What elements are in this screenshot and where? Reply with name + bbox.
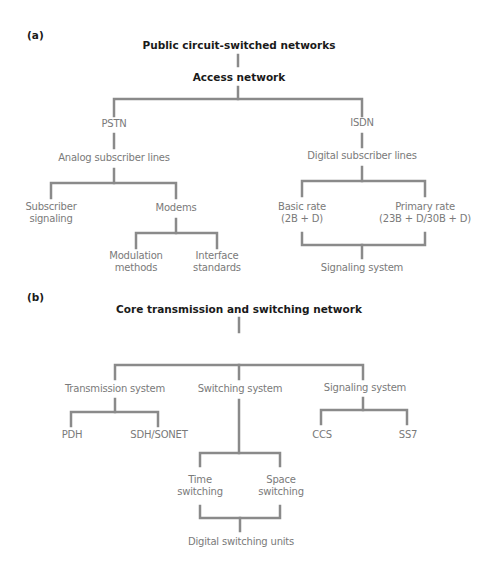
node-basic-rate: Basic rate (2B + D) xyxy=(278,201,326,225)
node-isdn-signaling-system: Signaling system xyxy=(321,262,403,274)
node-modulation-methods-line1: Modulation xyxy=(109,250,163,262)
node-isdn: ISDN xyxy=(350,117,374,129)
root-core-transmission-and-switching-network: Core transmission and switching network xyxy=(116,303,362,315)
node-transmission-system: Transmission system xyxy=(65,383,165,395)
node-subscriber-signaling: Subscriber signaling xyxy=(25,201,76,225)
node-basic-rate-line2: (2B + D) xyxy=(278,213,326,225)
node-time-switching-line2: switching xyxy=(177,486,223,498)
node-modulation-methods-line2: methods xyxy=(109,262,163,274)
node-pdh: PDH xyxy=(62,429,83,441)
node-sdh-sonet: SDH/SONET xyxy=(130,429,187,441)
panel-b-label: (b) xyxy=(27,291,44,303)
node-digital-subscriber-lines: Digital subscriber lines xyxy=(307,150,416,162)
node-subscriber-signaling-line1: Subscriber xyxy=(25,201,76,213)
node-space-switching: Space switching xyxy=(258,474,304,498)
node-analog-subscriber-lines: Analog subscriber lines xyxy=(58,152,170,164)
node-modems: Modems xyxy=(156,202,197,214)
node-subscriber-signaling-line2: signaling xyxy=(25,213,76,225)
node-access-network: Access network xyxy=(193,71,286,83)
node-digital-switching-units: Digital switching units xyxy=(188,536,294,548)
node-modulation-methods: Modulation methods xyxy=(109,250,163,274)
node-ccs: CCS xyxy=(312,429,332,441)
node-interface-standards: Interface standards xyxy=(193,250,241,274)
node-time-switching: Time switching xyxy=(177,474,223,498)
root-public-circuit-switched-networks: Public circuit-switched networks xyxy=(143,39,336,51)
node-primary-rate-line2: (23B + D/30B + D) xyxy=(379,213,471,225)
node-space-switching-line2: switching xyxy=(258,486,304,498)
node-basic-rate-line1: Basic rate xyxy=(278,201,326,213)
node-interface-standards-line2: standards xyxy=(193,262,241,274)
node-signaling-system: Signaling system xyxy=(324,382,406,394)
panel-a-label: (a) xyxy=(27,29,44,41)
node-switching-system: Switching system xyxy=(198,383,283,395)
connector-lines xyxy=(0,0,497,569)
node-ss7: SS7 xyxy=(399,429,417,441)
node-space-switching-line1: Space xyxy=(258,474,304,486)
node-pstn: PSTN xyxy=(101,118,126,130)
node-primary-rate: Primary rate (23B + D/30B + D) xyxy=(379,201,471,225)
node-time-switching-line1: Time xyxy=(177,474,223,486)
node-primary-rate-line1: Primary rate xyxy=(379,201,471,213)
node-interface-standards-line1: Interface xyxy=(193,250,241,262)
